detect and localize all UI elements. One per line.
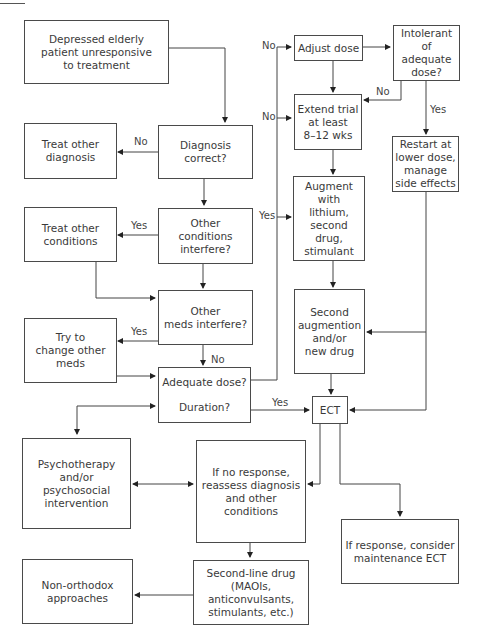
node-extend-trial: Extend trial at least 8–12 wks [294, 94, 362, 150]
node-start: Depressed elderly patient unresponsive t… [24, 20, 169, 84]
edge-label-meds-yes: Yes [131, 326, 147, 337]
edge-label-diag-no: No [134, 136, 148, 147]
edge-label-cond-yes: Yes [131, 220, 147, 231]
node-treat-other-conditions-text: Treat other conditions [42, 222, 99, 248]
edge-label-adjust-no: No [262, 40, 276, 51]
node-adjust-dose: Adjust dose [294, 35, 363, 61]
node-other-conditions-interfere: Other conditions interfere? [158, 208, 253, 264]
node-treat-other-diagnosis: Treat other diagnosis [24, 123, 117, 179]
node-psychotherapy-text: Psychotherapy and/or psychosocial interv… [38, 458, 116, 510]
node-ect: ECT [312, 396, 348, 424]
node-second-line-drug: Second-line drug (MAOIs, anticonvulsants… [193, 560, 309, 625]
node-no-response-reassess: If no response, reassess diagnosis and o… [196, 440, 306, 543]
node-psychotherapy: Psychotherapy and/or psychosocial interv… [22, 438, 131, 529]
node-intolerant-text: Intolerant of adequate dose? [396, 27, 457, 79]
node-treat-other-diagnosis-text: Treat other diagnosis [42, 138, 99, 164]
node-augment: Augment with lithium, second drug, stimu… [293, 176, 365, 261]
node-restart-lower-text: Restart at lower dose, manage side effec… [395, 138, 455, 190]
node-second-line-drug-text: Second-line drug (MAOIs, anticonvulsants… [196, 567, 306, 619]
node-diagnosis-correct: Diagnosis correct? [158, 125, 253, 179]
edge-label-meds-no: No [211, 354, 225, 365]
node-restart-lower: Restart at lower dose, manage side effec… [392, 136, 459, 192]
node-try-change-meds-text: Try to change other meds [36, 331, 106, 370]
edge-label-extend-no: No [262, 111, 276, 122]
node-non-orthodox: Non-orthodox approaches [22, 559, 133, 624]
node-other-meds-interfere-text: Other meds interfere? [164, 305, 247, 331]
edge-label-duration-yes: Yes [272, 397, 288, 408]
node-response-maintenance-text: If response, consider maintenance ECT [345, 539, 454, 565]
node-adequate-dose-text: Adequate dose? [162, 376, 246, 389]
node-intolerant: Intolerant of adequate dose? [393, 25, 460, 81]
node-ect-text: ECT [320, 404, 340, 417]
node-adjust-dose-text: Adjust dose [298, 42, 359, 55]
node-second-augmention-text: Second augmention and/or new drug [298, 306, 361, 358]
node-second-augmention: Second augmention and/or new drug [294, 289, 365, 374]
node-diagnosis-correct-text: Diagnosis correct? [180, 139, 231, 165]
node-duration-text: Duration? [179, 401, 230, 414]
node-adequate-dose-duration: Adequate dose? Duration? [158, 367, 251, 423]
node-response-maintenance: If response, consider maintenance ECT [341, 519, 459, 584]
edge-label-intolerant-no: No [376, 86, 390, 97]
node-start-text: Depressed elderly patient unresponsive t… [41, 33, 152, 72]
edge-label-intolerant-yes: Yes [430, 104, 446, 115]
node-try-change-meds: Try to change other meds [24, 318, 117, 383]
node-augment-text: Augment with lithium, second drug, stimu… [296, 180, 362, 258]
node-other-conditions-interfere-text: Other conditions interfere? [178, 217, 232, 256]
node-non-orthodox-text: Non-orthodox approaches [42, 579, 114, 605]
node-no-response-reassess-text: If no response, reassess diagnosis and o… [199, 466, 303, 518]
node-extend-trial-text: Extend trial at least 8–12 wks [298, 103, 359, 142]
node-other-meds-interfere: Other meds interfere? [158, 290, 253, 345]
edge-label-augment-yes: Yes [259, 210, 275, 221]
node-treat-other-conditions: Treat other conditions [24, 207, 117, 262]
